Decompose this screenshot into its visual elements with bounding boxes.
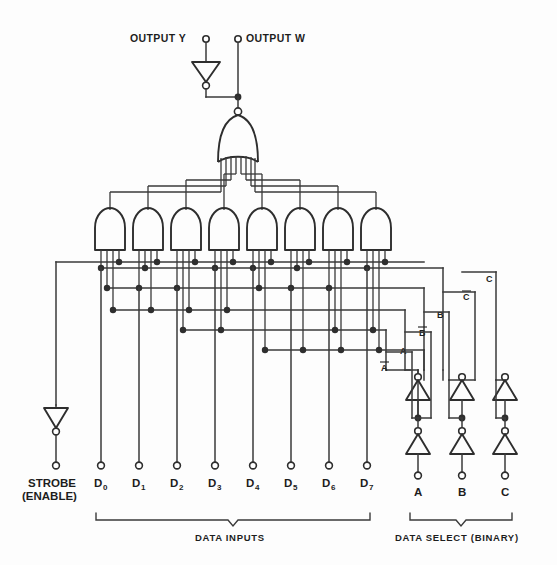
data-input-pin-d3[interactable] bbox=[212, 462, 219, 469]
output-w-group bbox=[235, 36, 242, 108]
output-w-pin[interactable] bbox=[235, 36, 241, 42]
data-input-label-d6: D bbox=[322, 477, 330, 489]
select-b-inverter-top bbox=[450, 380, 474, 400]
data-input-label-d7: D bbox=[360, 477, 368, 489]
rail-label-a-outer: A bbox=[400, 346, 407, 356]
data-input-label-d4: D bbox=[246, 477, 254, 489]
data-input-label-d3: D bbox=[208, 477, 216, 489]
data-input-sub-d3: 3 bbox=[217, 483, 222, 492]
data-input-labels: D0 D1 D2 D3 D4 D5 D6 D7 bbox=[94, 477, 374, 492]
strobe-inverter-bubble bbox=[53, 428, 60, 435]
select-rail-cbar bbox=[98, 265, 443, 370]
and-gate bbox=[285, 208, 315, 350]
data-input-line bbox=[250, 268, 257, 469]
select-input-pin-a[interactable] bbox=[415, 472, 422, 479]
and-gate bbox=[95, 208, 125, 310]
data-input-sub-d6: 6 bbox=[331, 483, 336, 492]
select-input-labels: A B C bbox=[414, 486, 509, 498]
data-input-sub-d0: 0 bbox=[103, 483, 108, 492]
data-input-label-d1: D bbox=[132, 477, 140, 489]
strobe-input-pin[interactable] bbox=[53, 462, 60, 469]
data-input-line bbox=[326, 288, 333, 469]
data-input-line bbox=[98, 268, 105, 469]
strobe-inverter bbox=[44, 408, 68, 428]
output-y-pin[interactable] bbox=[203, 36, 209, 42]
data-select-brace bbox=[410, 513, 512, 526]
output-y-inverter bbox=[192, 62, 220, 82]
data-input-pin-d7[interactable] bbox=[364, 462, 371, 469]
select-outer-routing bbox=[386, 272, 496, 418]
select-input-pin-c[interactable] bbox=[502, 472, 509, 479]
and-gate bbox=[133, 208, 163, 310]
nor-input-stems bbox=[110, 156, 376, 210]
schematic-svg: C C B B A A bbox=[0, 0, 557, 565]
data-input-line bbox=[136, 288, 143, 469]
select-rail-bbar bbox=[110, 307, 405, 370]
data-input-label-d5: D bbox=[284, 477, 292, 489]
data-inputs-brace bbox=[96, 513, 370, 526]
data-input-line bbox=[288, 288, 295, 469]
output-w-label: OUTPUT W bbox=[246, 32, 305, 44]
rail-label-cbar: C bbox=[463, 292, 470, 302]
data-input-line bbox=[174, 288, 181, 469]
data-input-sub-d4: 4 bbox=[255, 483, 260, 492]
nor-gate bbox=[218, 108, 258, 162]
select-input-label-a: A bbox=[414, 486, 422, 498]
select-b-inverter-bottom bbox=[450, 434, 474, 454]
and-gate bbox=[361, 208, 391, 350]
data-input-pin-d0[interactable] bbox=[98, 462, 105, 469]
select-c-inverter-bottom bbox=[493, 434, 517, 454]
data-input-sub-d1: 1 bbox=[141, 483, 146, 492]
select-buffer-c bbox=[493, 374, 517, 479]
data-input-sub-d5: 5 bbox=[293, 483, 298, 492]
data-input-pin-d6[interactable] bbox=[326, 462, 333, 469]
select-input-label-b: B bbox=[458, 486, 466, 498]
data-input-line bbox=[364, 268, 371, 469]
data-input-sub-d2: 2 bbox=[179, 483, 184, 492]
output-y-group bbox=[192, 36, 238, 97]
select-input-pin-b[interactable] bbox=[459, 472, 466, 479]
rail-label-bbar: B bbox=[419, 328, 426, 338]
data-inputs-group-label: DATA INPUTS bbox=[195, 532, 265, 543]
select-rail-b bbox=[180, 327, 386, 370]
data-input-sub-d7: 7 bbox=[369, 483, 374, 492]
data-input-pin-d1[interactable] bbox=[136, 462, 143, 469]
nor-gate-input-arc bbox=[218, 157, 258, 162]
output-y-label: OUTPUT Y bbox=[130, 32, 186, 44]
rail-label-abar: A bbox=[381, 363, 388, 373]
select-rail-c bbox=[104, 285, 424, 370]
nor-gate-bubble bbox=[234, 108, 241, 115]
data-input-line bbox=[212, 268, 219, 469]
select-input-label-c: C bbox=[501, 486, 509, 498]
and-gate bbox=[323, 208, 353, 350]
data-input-pins bbox=[98, 268, 371, 469]
data-input-label-d2: D bbox=[170, 477, 178, 489]
select-a-inverter-bottom bbox=[406, 434, 430, 454]
strobe-rail bbox=[56, 259, 424, 405]
and-gate bbox=[247, 208, 277, 350]
select-rail-labels: C C B B A A bbox=[380, 274, 493, 373]
output-y-inverter-bubble bbox=[203, 82, 210, 89]
strobe-label-line2: (ENABLE) bbox=[22, 490, 77, 502]
and-gate bbox=[171, 208, 201, 330]
strobe-label-line1: STROBE bbox=[28, 477, 76, 489]
logic-diagram-canvas: C C B B A A bbox=[0, 0, 557, 565]
strobe-inverter-group bbox=[44, 405, 68, 469]
data-input-label-d0: D bbox=[94, 477, 102, 489]
nor-gate-body bbox=[218, 115, 258, 162]
data-input-pin-d4[interactable] bbox=[250, 462, 257, 469]
data-input-pin-d2[interactable] bbox=[174, 462, 181, 469]
select-buffer-b bbox=[449, 374, 475, 479]
rail-label-c-outer: C bbox=[486, 274, 493, 284]
data-select-group-label: DATA SELECT (BINARY) bbox=[395, 532, 519, 543]
data-input-pin-d5[interactable] bbox=[288, 462, 295, 469]
